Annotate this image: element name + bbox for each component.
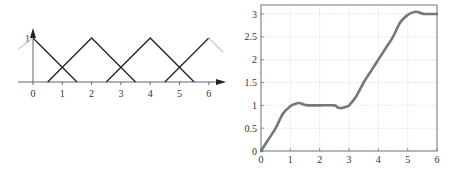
membership-function-line <box>106 38 194 82</box>
x-tick-label: 5 <box>177 88 182 99</box>
x-tick-label: 2 <box>317 154 322 165</box>
x-tick-label: 6 <box>435 154 440 165</box>
x-axis-arrow-icon <box>216 79 226 85</box>
x-tick-label: 1 <box>60 88 65 99</box>
x-tick-label: 6 <box>206 88 211 99</box>
x-tick-label: 0 <box>31 88 36 99</box>
x-tick-label: 5 <box>405 154 410 165</box>
y-tick-label: 1.5 <box>245 77 258 88</box>
output-chart: 012345600.511.522.53 <box>245 5 440 165</box>
y-tick-label: 0.5 <box>245 123 258 134</box>
x-tick-label: 4 <box>376 154 381 165</box>
x-tick-label: 4 <box>148 88 153 99</box>
figure: 01234561 012345600.511.522.53 <box>0 0 456 172</box>
y-tick-label: 1 <box>252 100 257 111</box>
x-tick-label: 3 <box>118 88 123 99</box>
x-tick-label: 0 <box>259 154 264 165</box>
x-tick-label: 2 <box>89 88 94 99</box>
x-tick-label: 3 <box>347 154 352 165</box>
y-axis-arrow-icon <box>30 28 36 38</box>
x-tick-label: 1 <box>288 154 293 165</box>
y-tick-label: 3 <box>252 9 257 20</box>
y-tick-label: 2 <box>252 54 257 65</box>
membership-function-line <box>48 38 136 82</box>
y-tick-label: 2.5 <box>245 31 258 42</box>
y-tick-label: 0 <box>252 146 257 157</box>
membership-chart: 01234561 <box>18 28 226 99</box>
